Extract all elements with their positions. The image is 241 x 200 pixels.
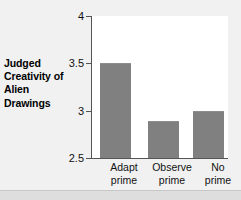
x-tick-label-no-prime-line-2: prime: [178, 174, 241, 187]
y-tick-mark-3.5: [86, 63, 92, 64]
y-tick-label-3: 3: [78, 106, 84, 117]
y-axis-title-line-3: Alien: [4, 83, 80, 96]
y-tick-mark-2.5: [86, 158, 92, 159]
x-axis-line: [91, 158, 228, 159]
bar-chart-figure: Judged Creativity of Alien Drawings 4 3.…: [0, 0, 241, 200]
y-tick-mark-4: [86, 16, 92, 17]
y-tick-mark-3: [86, 111, 92, 112]
x-tick-label-no-prime-line-1: No: [178, 161, 241, 174]
y-tick-label-3.5: 3.5: [69, 58, 84, 69]
x-tick-label-no-prime: No prime: [178, 161, 241, 186]
bar-observe-prime: [148, 121, 179, 159]
y-tick-label-4: 4: [78, 11, 84, 22]
bottom-band: [0, 190, 241, 200]
y-axis-title-line-2: Creativity of: [4, 70, 80, 83]
y-axis-title-line-4: Drawings: [4, 97, 80, 110]
bar-adapt-prime: [100, 63, 131, 159]
plot-area: [92, 16, 228, 159]
y-axis-line: [91, 16, 92, 159]
bar-no-prime: [193, 111, 224, 159]
y-tick-label-2.5: 2.5: [69, 153, 84, 164]
